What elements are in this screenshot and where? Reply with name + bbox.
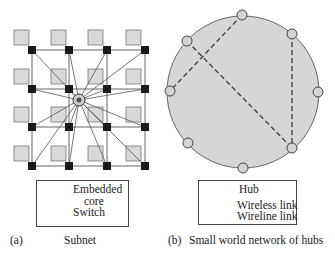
legend-core-label-1: Embedded (73, 184, 122, 196)
caption-a-label: (a) (10, 235, 23, 247)
hub-icon (313, 87, 323, 97)
legend-wireline-label: Wireline link (237, 211, 298, 223)
caption-b-label: (b) (168, 235, 181, 247)
hub-icon (287, 143, 297, 153)
legend-switch-label: Switch (73, 207, 105, 219)
subnet-diagram (14, 30, 149, 170)
hub-icon (165, 86, 175, 96)
hub-icon (183, 138, 193, 148)
hub-icon (287, 29, 297, 39)
caption-b-title: Small world network of hubs (189, 235, 323, 247)
hub-icon (182, 36, 192, 46)
hub-icon (237, 10, 247, 20)
legend-hub-label: Hub (239, 184, 259, 196)
central-hub-core (77, 98, 82, 103)
caption-a-title: Subnet (64, 235, 96, 247)
small-world-diagram (165, 10, 323, 173)
hub-icon (238, 163, 248, 173)
